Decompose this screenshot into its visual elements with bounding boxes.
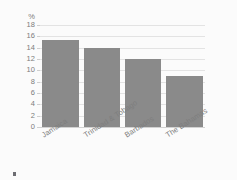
bar	[42, 40, 78, 127]
gridline	[40, 25, 205, 26]
y-tick-label: 8	[31, 78, 35, 86]
y-tick-label: 6	[31, 89, 35, 97]
page-artifact-mark	[13, 172, 16, 176]
x-axis: JamaicaTrinidad & TobagoBarbadosThe Baha…	[0, 128, 237, 178]
y-tick-label: 4	[31, 100, 35, 108]
y-tick-label: 16	[26, 32, 35, 40]
y-tick-label: 2	[31, 112, 35, 120]
y-tick-label: 18	[26, 21, 35, 29]
y-tick-label: 12	[26, 55, 35, 63]
y-tick-label: 10	[26, 66, 35, 74]
bar-chart-figure: % 024681012141618 JamaicaTrinidad & Toba…	[0, 0, 237, 180]
bar	[125, 59, 161, 127]
y-tick-label: 14	[26, 44, 35, 52]
gridline	[40, 36, 205, 37]
